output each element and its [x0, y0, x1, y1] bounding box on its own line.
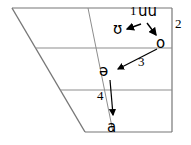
arrow-label-4: 4	[97, 89, 104, 102]
arrow-1-to-o	[147, 23, 156, 35]
arrow-label-1: 1	[130, 4, 137, 17]
vowel-symbol-schwa: ə	[99, 64, 108, 79]
vowel-symbol-o: o	[156, 36, 165, 51]
vowel-symbol-upsilon: ʊ	[113, 22, 122, 37]
trapezoid-left-edge	[12, 8, 85, 132]
vowel-chart-diagram: uu ʊ o ə a 1 2 3 4	[0, 0, 191, 145]
arrow-label-2: 2	[175, 17, 182, 30]
arrow-4-schwa-to-a	[110, 80, 113, 115]
arrow-label-3: 3	[138, 55, 145, 68]
vowel-symbol-a: a	[107, 120, 116, 135]
vowel-symbol-uu: uu	[138, 4, 157, 19]
arrow-1-to-upsilon	[127, 24, 141, 29]
vowel-trapezoid-svg	[0, 0, 191, 145]
